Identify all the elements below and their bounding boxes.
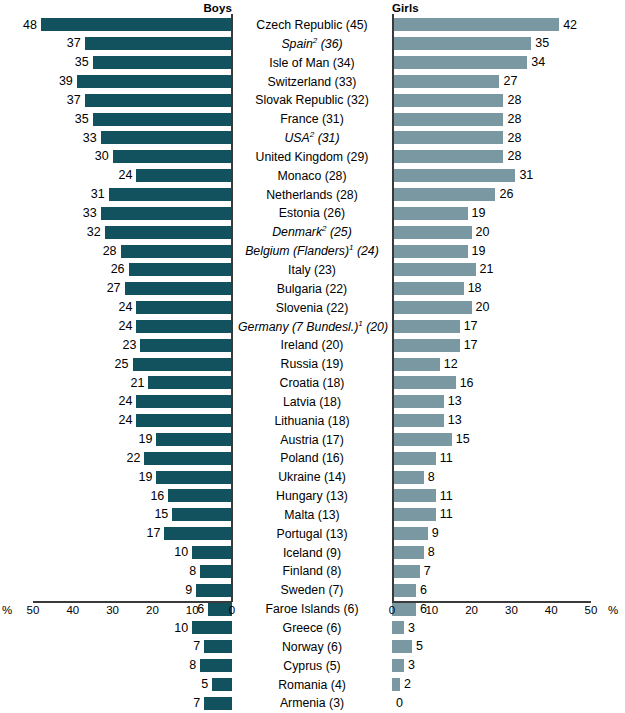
boys-bar-cell: 7 bbox=[0, 638, 232, 657]
girls-value-label: 18 bbox=[468, 281, 508, 295]
boys-bar-cell: 25 bbox=[0, 355, 232, 374]
girls-bar bbox=[392, 584, 416, 597]
boys-bar bbox=[140, 339, 232, 352]
chart-row: 24Monaco (28)31 bbox=[0, 167, 625, 186]
girls-bar-cell: 5 bbox=[392, 638, 625, 657]
boys-bar-cell: 24 bbox=[0, 167, 232, 186]
boys-value-label: 8 bbox=[156, 658, 196, 672]
country-label: Belgium (Flanders)1 (24) bbox=[238, 243, 386, 259]
boys-bar bbox=[200, 565, 232, 578]
country-label: Cyprus (5) bbox=[238, 658, 386, 674]
boys-bar bbox=[204, 640, 232, 653]
girls-bar-cell: 8 bbox=[392, 468, 625, 487]
boys-value-label: 37 bbox=[41, 36, 81, 50]
boys-bar bbox=[164, 527, 232, 540]
boys-bar-cell: 15 bbox=[0, 506, 232, 525]
chart-row: 37Slovak Republic (32)28 bbox=[0, 91, 625, 110]
boys-bar bbox=[125, 282, 232, 295]
country-label: Slovak Republic (32) bbox=[238, 92, 386, 108]
girls-value-label: 3 bbox=[408, 621, 448, 635]
girls-bar bbox=[392, 339, 460, 352]
girls-bar-cell: 28 bbox=[392, 129, 625, 148]
girls-value-label: 28 bbox=[507, 131, 547, 145]
girls-bar-cell: 35 bbox=[392, 35, 625, 54]
boys-bar-cell: 24 bbox=[0, 299, 232, 318]
boys-bar-cell: 26 bbox=[0, 261, 232, 280]
boys-bar-cell: 24 bbox=[0, 318, 232, 337]
boys-bar-cell: 8 bbox=[0, 562, 232, 581]
girls-bar-cell: 2 bbox=[392, 676, 625, 695]
boys-bar bbox=[204, 697, 232, 710]
boys-value-label: 31 bbox=[65, 187, 105, 201]
country-label: Germany (7 Bundesl.)1 (20) bbox=[238, 319, 386, 335]
chart-row: 31Netherlands (28)26 bbox=[0, 186, 625, 205]
girls-bar bbox=[392, 565, 420, 578]
right-axis-unit: % bbox=[608, 604, 618, 616]
girls-bar bbox=[392, 395, 444, 408]
country-label: Ireland (20) bbox=[238, 337, 386, 353]
chart-row: 21Croatia (18)16 bbox=[0, 374, 625, 393]
boys-bar bbox=[109, 188, 232, 201]
girls-column-header: Girls bbox=[392, 2, 419, 14]
girls-value-label: 12 bbox=[444, 357, 484, 371]
girls-bar-cell: 7 bbox=[392, 562, 625, 581]
boys-value-label: 5 bbox=[168, 677, 208, 691]
boys-bar-cell: 22 bbox=[0, 449, 232, 468]
country-label: Finland (8) bbox=[238, 563, 386, 579]
girls-value-label: 19 bbox=[472, 244, 512, 258]
chart-row: 19Ukraine (14)8 bbox=[0, 468, 625, 487]
boys-bar-cell: 32 bbox=[0, 223, 232, 242]
boys-value-label: 16 bbox=[124, 489, 164, 503]
chart-row: 23Ireland (20)17 bbox=[0, 336, 625, 355]
country-label: Lithuania (18) bbox=[238, 413, 386, 429]
boys-bar bbox=[93, 56, 232, 69]
girls-bar-cell: 28 bbox=[392, 110, 625, 129]
country-label: Netherlands (28) bbox=[238, 187, 386, 203]
boys-bar-cell: 37 bbox=[0, 91, 232, 110]
girls-bar bbox=[392, 301, 472, 314]
right-axis-line bbox=[392, 601, 591, 603]
girls-bar-cell: 11 bbox=[392, 487, 625, 506]
girls-bar bbox=[392, 131, 503, 144]
girls-bar-cell: 34 bbox=[392, 54, 625, 73]
girls-bar-cell: 8 bbox=[392, 544, 625, 563]
boys-value-label: 48 bbox=[0, 18, 37, 32]
girls-value-label: 31 bbox=[519, 168, 559, 182]
chart-row: 33Estonia (26)19 bbox=[0, 204, 625, 223]
boys-bar bbox=[136, 395, 232, 408]
girls-bar-cell: 31 bbox=[392, 167, 625, 186]
girls-bar-cell: 42 bbox=[392, 16, 625, 35]
boys-bar bbox=[129, 263, 232, 276]
country-label: Russia (19) bbox=[238, 356, 386, 372]
chart-row: 24Latvia (18)13 bbox=[0, 393, 625, 412]
girls-value-label: 9 bbox=[432, 526, 472, 540]
chart-row: 39Switzerland (33)27 bbox=[0, 73, 625, 92]
girls-bar bbox=[392, 75, 499, 88]
girls-bar-cell: 19 bbox=[392, 204, 625, 223]
girls-bar bbox=[392, 37, 531, 50]
chart-row: 35France (31)28 bbox=[0, 110, 625, 129]
country-label: Estonia (26) bbox=[238, 205, 386, 221]
girls-value-label: 11 bbox=[440, 451, 480, 465]
girls-bar-cell: 17 bbox=[392, 318, 625, 337]
girls-bar-cell: 20 bbox=[392, 299, 625, 318]
boys-bar-cell: 35 bbox=[0, 54, 232, 73]
girls-value-label: 26 bbox=[499, 187, 539, 201]
chart-row: 10Iceland (9)8 bbox=[0, 544, 625, 563]
chart-row: 7Norway (6)5 bbox=[0, 638, 625, 657]
boys-value-label: 8 bbox=[156, 564, 196, 578]
chart-row: 17Portugal (13)9 bbox=[0, 525, 625, 544]
country-label: Latvia (18) bbox=[238, 394, 386, 410]
boys-value-label: 27 bbox=[81, 281, 121, 295]
boys-value-label: 32 bbox=[61, 225, 101, 239]
girls-value-label: 5 bbox=[416, 639, 456, 653]
boys-bar bbox=[113, 150, 232, 163]
boys-value-label: 26 bbox=[85, 262, 125, 276]
boys-bar-cell: 10 bbox=[0, 619, 232, 638]
axis-tick-label: 30 bbox=[496, 604, 526, 616]
chart-row: 8Finland (8)7 bbox=[0, 562, 625, 581]
country-label: Hungary (13) bbox=[238, 488, 386, 504]
country-label: Czech Republic (45) bbox=[238, 17, 386, 33]
boys-bar-cell: 31 bbox=[0, 186, 232, 205]
